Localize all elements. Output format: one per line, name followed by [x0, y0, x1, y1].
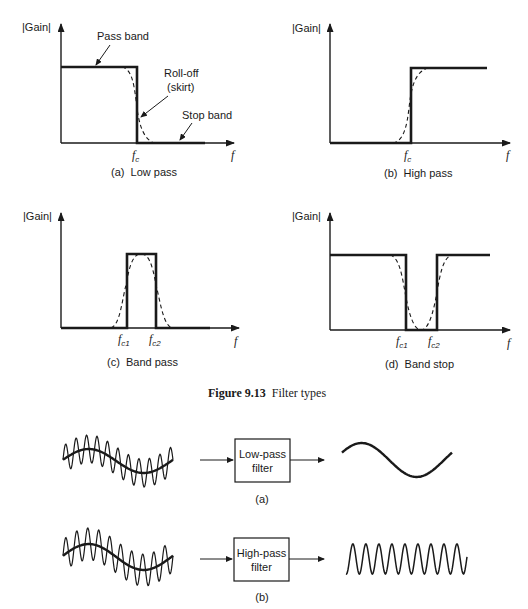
ideal-response — [61, 254, 210, 328]
x-axis-label: f — [234, 334, 239, 348]
real-response — [390, 255, 452, 330]
cutoff1-label: fc1 — [118, 332, 130, 348]
x-axis-label: f — [507, 336, 512, 350]
ideal-response — [330, 255, 490, 330]
filter-label-line1: Low-pass — [239, 448, 287, 460]
cutoff-label: fc — [132, 148, 139, 164]
panel-low-pass: |Gain| Pass band Roll-off (skirt) Stop b… — [22, 21, 236, 178]
ideal-response — [330, 68, 487, 143]
pass-band-label: Pass band — [97, 30, 149, 42]
panel-caption: (d) Band stop — [385, 358, 454, 370]
cutoff1-label: fc1 — [396, 334, 408, 350]
x-axis-label: f — [231, 148, 236, 162]
filter-label-line2: filter — [251, 561, 272, 573]
cutoff2-label: fc2 — [428, 334, 440, 350]
panel-band-stop: |Gain| fc1 fc2 f (d) Band stop — [292, 210, 512, 370]
panel-caption: (c) Band pass — [107, 356, 178, 368]
stop-band-pointer — [180, 123, 192, 140]
high-pass-filter-box — [234, 538, 289, 581]
panel-high-pass: |Gain| fc f (b) High pass — [292, 22, 511, 179]
low-pass-filter-box — [235, 439, 290, 482]
y-axis-label: |Gain| — [292, 210, 321, 222]
diagram-caption: (a) — [255, 493, 268, 505]
filter-label-line2: filter — [252, 462, 273, 474]
filter-label-line1: High-pass — [237, 547, 287, 559]
panel-band-pass: |Gain| fc1 fc2 f (c) Band pass — [23, 210, 239, 368]
rolloff-pointer — [141, 96, 168, 117]
output-signal — [342, 443, 452, 477]
rolloff-label: Roll-off — [164, 67, 200, 79]
cutoff2-label: fc2 — [149, 332, 161, 348]
diagram-caption: (b) — [255, 591, 268, 603]
y-axis-label: |Gain| — [23, 210, 52, 222]
cutoff-label: fc — [404, 148, 411, 164]
x-axis-label: f — [506, 148, 511, 162]
skirt-label: (skirt) — [167, 81, 195, 93]
signal-diagram-high-pass: High-pass filter (b) — [63, 528, 467, 603]
y-axis-label: |Gain| — [22, 21, 51, 33]
figure-caption: Figure 9.13Filter types — [208, 386, 326, 400]
panel-caption: (b) High pass — [384, 167, 453, 179]
signal-diagram-low-pass: Low-pass filter (a) — [63, 435, 452, 505]
panel-caption: (a) Low pass — [111, 166, 178, 178]
output-signal — [346, 544, 467, 574]
figure-canvas: |Gain| Pass band Roll-off (skirt) Stop b… — [0, 0, 528, 609]
y-axis-label: |Gain| — [292, 22, 321, 34]
pass-band-pointer — [96, 45, 110, 65]
stop-band-label: Stop band — [182, 109, 232, 121]
real-response — [111, 254, 172, 328]
